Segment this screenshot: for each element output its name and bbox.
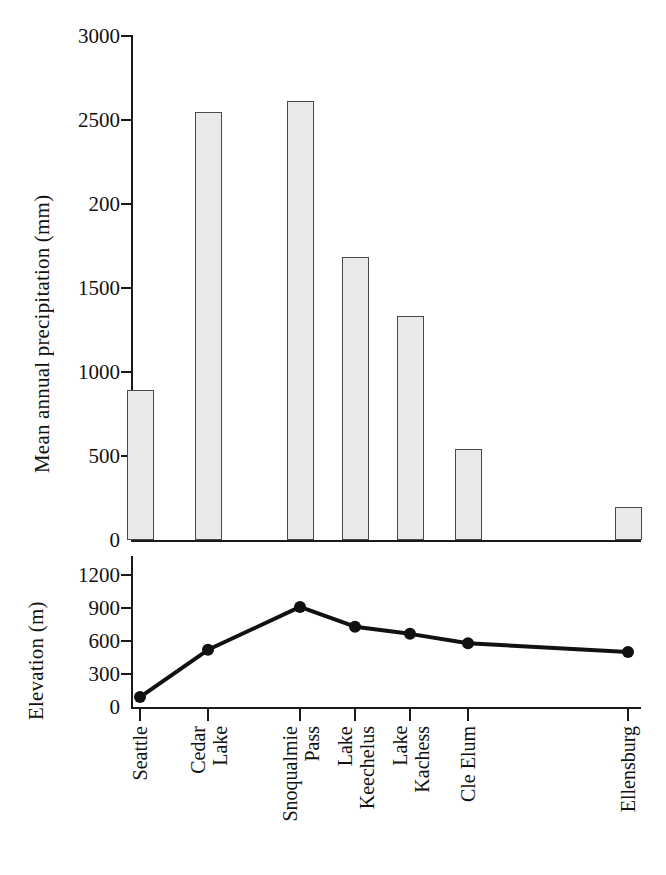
x-axis-tick-mark [299, 708, 301, 721]
precipitation-bar [615, 507, 642, 540]
elevation-line [140, 607, 628, 697]
elevation-data-point [349, 621, 361, 633]
ytick-mark-elev [121, 640, 132, 642]
elevation-axis-label: Elevation (m) [24, 570, 49, 720]
ytick-label-elev: 0 [58, 697, 120, 718]
elevation-y-axis [131, 556, 133, 708]
ytick-label-precip: 0 [58, 530, 120, 551]
precipitation-baseline [131, 540, 641, 542]
elevation-data-point [404, 628, 416, 640]
elevation-data-point [134, 691, 146, 703]
precipitation-bar [397, 316, 424, 540]
ytick-mark-precip [121, 371, 132, 373]
ytick-mark-precip [121, 119, 132, 121]
x-axis-category-label: Cle Elum [458, 726, 480, 802]
x-axis-tick-mark [467, 708, 469, 721]
x-axis-category-label: Lake Kachess [390, 726, 433, 793]
ytick-label-precip: 500 [58, 446, 120, 467]
ytick-mark-elev [121, 673, 132, 675]
ytick-label-elev: 300 [58, 664, 120, 685]
x-axis-tick-mark [409, 708, 411, 721]
precipitation-bar [195, 112, 222, 540]
precipitation-bar [455, 449, 482, 540]
x-axis-tick-mark [139, 708, 141, 721]
ytick-label-precip: 2500 [58, 110, 120, 131]
precipitation-bar [287, 101, 314, 540]
ytick-label-precip: 1500 [58, 278, 120, 299]
elevation-data-point [462, 637, 474, 649]
precipitation-bar [342, 257, 369, 540]
x-axis-category-label: Ellensburg [618, 726, 640, 812]
ytick-mark-elev [121, 607, 132, 609]
ytick-label-precip: 200 [58, 194, 120, 215]
ytick-mark-elev [121, 574, 132, 576]
x-axis-tick-mark [354, 708, 356, 721]
elevation-data-point [294, 601, 306, 613]
precipitation-axis-label: Mean annual precipitation (mm) [30, 78, 55, 473]
elevation-data-point [622, 646, 634, 658]
x-axis-category-label: Cedar Lake [188, 726, 231, 774]
elevation-data-point [202, 644, 214, 656]
ytick-mark-precip [121, 35, 132, 37]
ytick-label-elev: 600 [58, 631, 120, 652]
ytick-label-elev: 1200 [58, 565, 120, 586]
precipitation-bar [127, 390, 154, 540]
x-axis-category-label: Seattle [130, 726, 152, 780]
ytick-label-precip: 3000 [58, 26, 120, 47]
chart-figure: Mean annual precipitation (mm) 3000 2500… [0, 0, 666, 875]
ytick-label-precip: 1000 [58, 362, 120, 383]
ytick-mark-precip [121, 287, 132, 289]
x-axis-tick-mark [207, 708, 209, 721]
x-axis-category-label: Snoqualmie Pass [280, 726, 323, 822]
x-axis-category-label: Lake Keechelus [335, 726, 378, 809]
ytick-mark-precip [121, 203, 132, 205]
x-axis-tick-mark [627, 708, 629, 721]
ytick-label-elev: 900 [58, 598, 120, 619]
